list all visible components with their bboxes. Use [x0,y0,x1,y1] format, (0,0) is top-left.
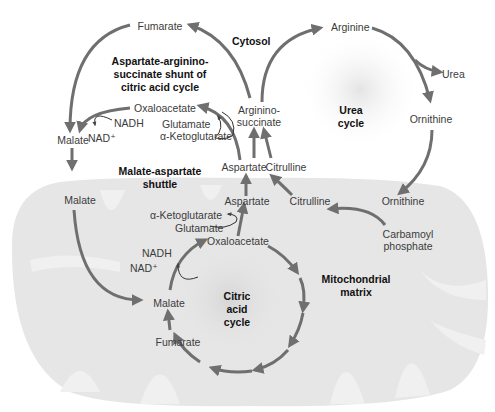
label-mito-citrulline: Citrulline [290,195,331,207]
label-carbamoyl-phosphate: Carbamoyl phosphate [383,228,434,252]
label-urea: Urea [442,68,465,80]
label-argininosuccinate: Arginino- succinate [237,104,281,128]
label-mito-glutamate: Glutamate [175,222,223,234]
label-cytosol-citrulline: Citrulline [266,161,307,173]
label-cytosol-glutamate: Glutamate [162,118,210,130]
label-mito-fumarate: Fumarate [156,336,201,348]
label-cytosol-oxaloacetate: Oxaloacetate [134,102,196,114]
label-citric-acid-cycle: Citric acid cycle [224,290,251,329]
label-malate-aspartate-shuttle: Malate-aspartate shuttle [119,165,202,191]
label-cytosol-aketoglutarate: α-Ketoglutarate [160,130,232,142]
label-mito-aketoglutarate: α-Ketoglutarate [150,209,222,221]
label-cytosol: Cytosol [232,35,271,47]
label-cytosol-fumarate: Fumarate [138,20,183,32]
label-mito-aspartate: Aspartate [225,195,270,207]
label-cytosol-nadh: NADH [114,117,144,129]
label-cytosol-ornithine: Ornithine [410,113,453,125]
label-urea-cycle: Urea cycle [338,104,364,130]
label-mitochondrial-matrix: Mitochondrial matrix [322,273,391,299]
label-cytosol-nad: NAD⁺ [88,132,116,144]
label-arginine: Arginine [331,21,370,33]
label-mito-oxaloacetate: Oxaloacetate [207,235,269,247]
label-cytosol-malate: Malate [57,134,89,146]
label-mito-malate: Malate [153,297,185,309]
label-aspartate-argininosuccinate-shunt: Aspartate-arginino- succinate shunt of c… [112,55,209,94]
label-mito-nad: NAD⁺ [130,262,158,274]
label-mito-nadh: NADH [142,247,172,259]
label-cytosol-aspartate: Aspartate [222,161,267,173]
label-mito-ornithine: Ornithine [382,195,425,207]
label-mito-malate-top: Malate [64,194,96,206]
